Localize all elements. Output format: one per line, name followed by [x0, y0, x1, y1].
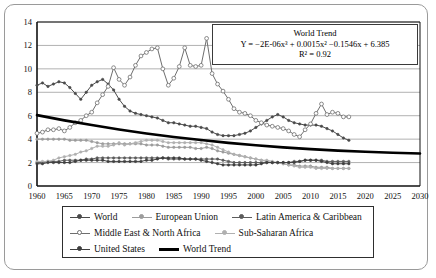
data-point	[249, 130, 252, 133]
data-point	[178, 141, 181, 144]
data-point	[304, 159, 307, 162]
legend-marker-icon	[70, 245, 90, 254]
data-point	[298, 123, 301, 126]
data-point	[244, 164, 247, 167]
data-point	[287, 119, 290, 122]
data-point	[47, 161, 50, 164]
data-point	[167, 157, 170, 160]
legend-item-world[interactable]: World	[70, 212, 118, 222]
data-point	[276, 113, 279, 116]
data-point	[266, 161, 269, 164]
data-point	[177, 65, 181, 69]
data-point	[238, 110, 242, 114]
x-axis-tick-label: 1985	[165, 191, 182, 201]
data-point	[96, 80, 99, 83]
legend-label: Sub-Saharan Africa	[239, 228, 314, 238]
data-point	[123, 157, 126, 160]
series-line	[37, 158, 349, 165]
data-point	[112, 144, 115, 147]
data-point	[298, 166, 301, 169]
legend-item-world-trend[interactable]: World Trend	[159, 244, 231, 254]
data-point	[151, 139, 154, 142]
data-point	[134, 160, 137, 163]
legend-item-latin-america-caribbean[interactable]: Latin America & Caribbean	[232, 212, 362, 222]
data-point	[96, 159, 99, 162]
data-point	[205, 146, 208, 149]
data-point	[211, 158, 214, 161]
x-axis-tick-label: 2015	[329, 191, 346, 201]
x-axis-tick-label: 2010	[302, 191, 319, 201]
x-axis-tick-label: 1970	[83, 191, 100, 201]
data-point	[178, 157, 181, 160]
data-point	[118, 160, 121, 163]
data-point	[90, 110, 94, 114]
data-point	[145, 139, 148, 142]
data-point	[255, 158, 257, 161]
data-point	[123, 144, 126, 147]
data-point	[292, 133, 296, 137]
data-point	[281, 127, 285, 131]
data-point	[304, 124, 307, 127]
data-point	[216, 150, 219, 153]
data-point	[315, 167, 318, 170]
data-point	[227, 134, 230, 137]
data-point	[107, 145, 110, 148]
data-point	[227, 160, 230, 163]
legend-item-sub-saharan-africa[interactable]: Sub-Saharan Africa	[215, 228, 314, 238]
data-point	[74, 160, 77, 163]
data-point	[298, 135, 302, 139]
legend-item-united-states[interactable]: United States	[70, 244, 145, 254]
data-point	[156, 117, 159, 120]
data-point	[194, 125, 197, 128]
data-point	[178, 146, 181, 149]
series-sub-saharan-africa	[36, 139, 350, 170]
data-point	[58, 138, 61, 141]
data-point	[107, 157, 110, 160]
data-point	[129, 157, 132, 160]
x-axis-tick-label: 1960	[29, 191, 46, 201]
series-united-states	[36, 157, 350, 167]
data-point	[167, 121, 170, 124]
data-point	[63, 82, 66, 85]
data-point	[167, 146, 170, 149]
data-point	[107, 160, 110, 163]
data-point	[58, 161, 61, 164]
data-point	[331, 162, 334, 165]
data-point	[194, 158, 197, 161]
data-point	[199, 63, 203, 67]
data-point	[128, 75, 132, 79]
data-point	[227, 97, 231, 101]
data-point	[205, 37, 209, 41]
data-point	[123, 105, 126, 108]
data-point	[90, 147, 93, 150]
data-point	[145, 144, 148, 147]
data-point	[227, 151, 230, 154]
legend-item-middle-east-north-africa[interactable]: Middle East & North Africa	[70, 228, 201, 238]
data-point	[189, 158, 192, 161]
data-point	[244, 155, 247, 158]
legend-marker-icon	[159, 245, 179, 254]
data-point	[80, 151, 83, 154]
data-point	[233, 153, 236, 156]
legend-label: World Trend	[183, 244, 231, 254]
legend-item-european-union[interactable]: European Union	[132, 212, 219, 222]
data-point	[74, 92, 77, 95]
data-point	[222, 164, 225, 167]
data-point	[244, 132, 247, 135]
data-point	[331, 110, 335, 114]
data-point	[260, 162, 263, 165]
x-axis-tick-label: 2000	[247, 191, 264, 201]
equation-title: World Trend	[217, 28, 413, 39]
data-point	[298, 160, 301, 163]
data-point	[118, 98, 121, 101]
data-point	[211, 144, 214, 147]
data-point	[173, 121, 176, 124]
data-point	[238, 164, 241, 167]
data-point	[194, 147, 197, 150]
data-point	[309, 159, 312, 162]
data-point	[36, 138, 39, 141]
data-point	[80, 159, 83, 162]
data-point	[101, 93, 105, 97]
data-point	[162, 157, 165, 160]
legend-marker-icon	[70, 213, 90, 222]
